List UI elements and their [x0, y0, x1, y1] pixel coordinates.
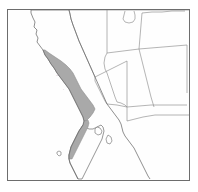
map-canvas: ···· — [7, 9, 190, 181]
locality-mark-2: · — [63, 88, 64, 92]
map-figure: ···· Outline map of the southwestern Uni… — [0, 0, 198, 192]
map-frame-border: ···· — [7, 9, 190, 181]
locality-mark-1: ··· — [56, 74, 59, 78]
ocean-background — [7, 9, 190, 181]
